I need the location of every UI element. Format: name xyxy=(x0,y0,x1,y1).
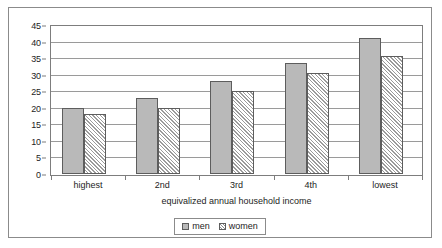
y-tick-mark-20 xyxy=(42,108,46,109)
bar-women-2nd[interactable] xyxy=(158,108,180,174)
y-tick-mark-15 xyxy=(42,125,46,126)
x-tick-label-2nd: 2nd xyxy=(155,180,170,190)
y-tick-mark-35 xyxy=(42,59,46,60)
y-tick-mark-25 xyxy=(42,92,46,93)
bar-group-lowest xyxy=(349,27,423,174)
y-tick-label-45: 45 xyxy=(31,21,41,31)
y-tick-label-35: 35 xyxy=(31,54,41,64)
legend-label-women: women xyxy=(229,221,258,231)
bar-men-highest[interactable] xyxy=(62,108,84,174)
y-tick-label-10: 10 xyxy=(31,137,41,147)
x-axis-labels: highest2nd3rd4thlowest xyxy=(50,180,423,194)
legend-swatch-men-icon xyxy=(182,223,189,230)
legend-swatch-women-icon xyxy=(219,223,226,230)
y-tick-mark-45 xyxy=(42,26,46,27)
legend-box: menwomen xyxy=(174,218,266,235)
bar-women-highest[interactable] xyxy=(84,114,106,174)
y-tick-label-15: 15 xyxy=(31,120,41,130)
bar-women-3rd[interactable] xyxy=(232,91,254,174)
legend-entry-men[interactable]: men xyxy=(182,221,210,231)
y-tick-label-30: 30 xyxy=(31,71,41,81)
x-tick-label-4th: 4th xyxy=(304,180,317,190)
y-tick-mark-5 xyxy=(42,158,46,159)
bar-women-lowest[interactable] xyxy=(381,56,403,174)
y-tick-label-20: 20 xyxy=(31,104,41,114)
bar-group-3rd xyxy=(200,27,274,174)
bar-women-4th[interactable] xyxy=(307,73,329,174)
bar-men-lowest[interactable] xyxy=(359,38,381,174)
legend-entry-women[interactable]: women xyxy=(219,221,258,231)
y-tick-mark-0 xyxy=(42,175,46,176)
x-tick-label-highest: highest xyxy=(74,180,103,190)
bar-group-2nd xyxy=(126,27,200,174)
bar-group-4th xyxy=(275,27,349,174)
y-tick-mark-10 xyxy=(42,141,46,142)
bars-layer xyxy=(52,27,421,174)
x-tick-label-3rd: 3rd xyxy=(230,180,243,190)
plot-area xyxy=(50,25,423,176)
bar-men-2nd[interactable] xyxy=(136,98,158,174)
chart-frame: 051015202530354045 highest2nd3rd4thlowes… xyxy=(8,7,432,238)
y-axis: 051015202530354045 xyxy=(17,25,46,176)
x-tick-label-lowest: lowest xyxy=(372,180,398,190)
bar-group-highest xyxy=(52,27,126,174)
y-tick-label-40: 40 xyxy=(31,38,41,48)
y-tick-label-25: 25 xyxy=(31,87,41,97)
y-tick-mark-40 xyxy=(42,42,46,43)
legend: menwomen xyxy=(9,218,431,235)
x-axis-title: equivalized annual household income xyxy=(50,196,423,206)
bar-men-4th[interactable] xyxy=(285,63,307,174)
y-tick-label-5: 5 xyxy=(36,153,41,163)
y-tick-mark-30 xyxy=(42,75,46,76)
bar-men-3rd[interactable] xyxy=(210,81,232,174)
legend-label-men: men xyxy=(192,221,210,231)
y-tick-label-0: 0 xyxy=(36,170,41,180)
